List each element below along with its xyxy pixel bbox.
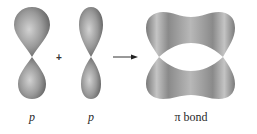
reaction-arrow-icon [113,55,138,60]
pi-bond [146,12,235,99]
pi-bond-top-lobe [146,12,235,57]
orbital-diagram: + [0,0,257,134]
orbital-1-label: p [29,110,35,125]
p-orbital-1-top-lobe [14,7,50,57]
p-orbital-2-bottom-lobe [81,57,101,99]
pi-bond-bottom-lobe [146,57,235,99]
orbital-2-label: p [88,110,94,125]
p-orbital-2 [79,7,103,99]
p-orbital-1-bottom-lobe [18,57,46,99]
p-orbital-1 [14,7,50,99]
pi-bond-label: π bond [174,110,207,125]
p-orbital-2-top-lobe [79,7,103,57]
plus-operator: + [56,52,62,63]
